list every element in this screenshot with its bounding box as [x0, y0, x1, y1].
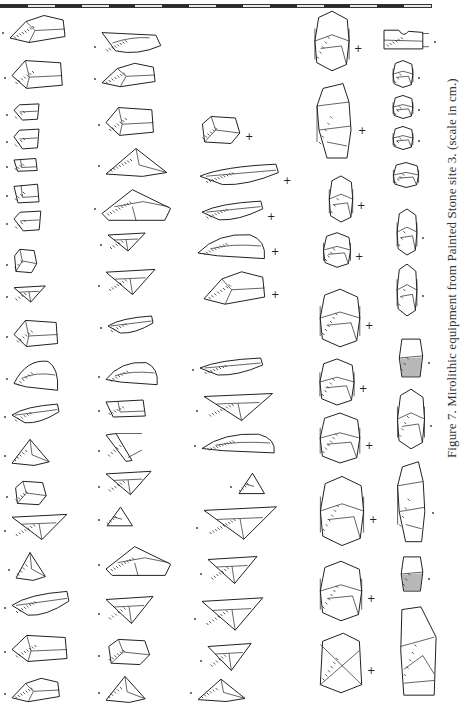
lithic-outline-icon [328, 175, 354, 223]
lithic-outline-icon [318, 560, 364, 622]
lithic-outline-icon [12, 157, 40, 172]
artifact-drawing [198, 115, 242, 145]
orientation-dot-icon [194, 618, 196, 620]
artifact-drawing [12, 157, 40, 172]
orientation-dot-icon [98, 285, 100, 287]
lithic-outline-icon [400, 555, 424, 593]
artifact-drawing [10, 590, 70, 618]
artifact-drawing [313, 10, 351, 72]
lithic-outline-icon [12, 285, 46, 303]
artifact-drawing [318, 632, 364, 694]
artifact-drawing [202, 270, 268, 306]
orientation-dot-icon [94, 78, 96, 80]
lithic-outline-icon [196, 232, 268, 260]
artifact-drawing [206, 642, 252, 672]
orientation-dot-icon [4, 77, 6, 79]
artifact-drawing [196, 678, 246, 702]
orientation-dot-icon [98, 655, 100, 657]
lithic-outline-icon [100, 62, 158, 88]
artifact-drawing [315, 82, 355, 162]
lithic-outline-icon [196, 678, 246, 702]
artifact-drawing [12, 318, 60, 348]
lithic-outline-icon [104, 105, 156, 137]
artifact-drawing [10, 403, 60, 425]
lithic-outline-icon [104, 595, 154, 625]
artifact-drawing [104, 638, 152, 666]
lithic-outline-icon [12, 128, 42, 150]
lithic-outline-icon [12, 480, 48, 506]
bulb-marker-icon: + [355, 252, 363, 262]
orientation-dot-icon [190, 692, 192, 694]
artifact-drawing [396, 208, 418, 256]
orientation-dot-icon [6, 378, 8, 380]
orientation-dot-icon [4, 693, 6, 695]
lithic-outline-icon [318, 412, 362, 464]
artifact-drawing [104, 105, 156, 137]
orientation-dot-icon [192, 369, 194, 371]
artifact-drawing [200, 200, 264, 222]
lithic-outline-icon [106, 315, 154, 335]
bulb-marker-icon: + [283, 176, 291, 186]
lithic-outline-icon [200, 432, 278, 454]
lithic-outline-icon [202, 270, 268, 306]
lithic-outline-icon [198, 163, 280, 187]
orientation-dot-icon [98, 519, 100, 521]
lithic-outline-icon [10, 438, 50, 466]
bulb-marker-icon: + [245, 132, 253, 142]
lithic-outline-icon [104, 398, 150, 418]
artifact-drawing [398, 337, 424, 379]
lithic-outline-icon [322, 232, 352, 268]
bulb-marker-icon: + [267, 212, 275, 222]
artifact-drawing [12, 358, 60, 392]
artifact-drawing [104, 545, 172, 577]
artifact-drawing [14, 551, 46, 581]
bulb-marker-icon: + [271, 290, 279, 300]
lithic-outline-icon [10, 513, 68, 541]
lithic-outline-icon [392, 126, 414, 150]
artifact-drawing [318, 475, 366, 547]
lithic-outline-icon [12, 210, 44, 232]
artifact-drawing [106, 315, 154, 335]
lithic-outline-icon [392, 60, 414, 88]
artifact-drawing [198, 357, 264, 377]
orientation-dot-icon [428, 362, 430, 364]
artifact-drawing [206, 555, 258, 585]
bulb-marker-icon: + [367, 594, 375, 604]
artifact-drawing [104, 398, 150, 418]
artifact-drawing [200, 596, 264, 632]
lithic-outline-icon [200, 596, 264, 632]
bulb-marker-icon: + [271, 247, 279, 257]
lithic-outline-icon [202, 392, 274, 422]
artifact-drawing [106, 232, 146, 252]
orientation-dot-icon [418, 109, 420, 111]
lithic-outline-icon [400, 605, 438, 697]
lithic-outline-icon [318, 288, 362, 348]
bulb-marker-icon: + [365, 441, 373, 451]
lithic-outline-icon [396, 208, 418, 256]
lithic-outline-icon [12, 358, 60, 392]
artifact-drawing [12, 182, 42, 204]
artifact-drawing [396, 263, 418, 317]
lithic-outline-icon [12, 318, 60, 348]
artifact-drawing [104, 675, 146, 703]
artifact-drawing [392, 126, 414, 150]
artifact-drawing [328, 175, 354, 223]
orientation-dot-icon [6, 336, 8, 338]
orientation-dot-icon [6, 296, 8, 298]
bulb-marker-icon: + [359, 384, 367, 394]
lithic-outline-icon [104, 675, 146, 703]
artifact-drawing [10, 58, 65, 90]
orientation-dot-icon [98, 450, 100, 452]
lithic-outline-icon [104, 506, 134, 528]
lithic-outline-icon [236, 472, 266, 496]
artifact-drawing [12, 285, 46, 303]
lithic-outline-icon [206, 642, 252, 672]
lithic-outline-icon [313, 10, 351, 72]
artifact-drawing [400, 555, 424, 593]
lithic-outline-icon [10, 58, 65, 90]
artifact-drawing [10, 438, 50, 466]
artifact-drawing [12, 480, 48, 506]
bulb-marker-icon: + [367, 666, 375, 676]
